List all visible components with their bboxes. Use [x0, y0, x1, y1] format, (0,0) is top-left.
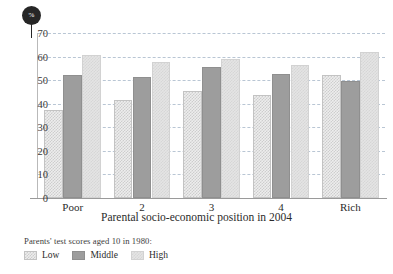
bar-middle-2	[133, 77, 152, 198]
x-axis-tick-label: Poor	[62, 201, 83, 213]
x-axis-line	[30, 198, 387, 199]
legend-title: Parents' test scores aged 10 in 1980:	[24, 236, 324, 246]
legend: Parents' test scores aged 10 in 1980: Lo…	[24, 236, 324, 260]
legend-swatch-middle-icon	[72, 251, 85, 260]
x-axis-tick-label: 3	[209, 201, 215, 213]
bar-low-4	[253, 95, 272, 198]
bar-group	[114, 33, 171, 198]
plot-area	[38, 33, 385, 198]
bar-high-2	[152, 62, 171, 198]
bar-middle-3	[202, 67, 221, 198]
bar-group	[322, 33, 379, 198]
x-axis-tick-label: Rich	[340, 201, 361, 213]
legend-swatch-high-icon	[131, 251, 144, 260]
y-axis-tick-label: 50	[24, 75, 48, 86]
bar-high-3	[221, 59, 240, 198]
bar-group	[253, 33, 310, 198]
bar-middle-rich	[341, 81, 360, 198]
legend-label: Middle	[90, 250, 117, 260]
y-axis-tick-label: 30	[24, 122, 48, 133]
legend-label: High	[149, 250, 168, 260]
legend-swatch-low-icon	[24, 251, 37, 260]
bar-high-4	[291, 65, 310, 198]
bar-high-poor	[82, 55, 101, 198]
bar-chart: % Parental socio-economic position in 20…	[0, 0, 393, 274]
percent-badge-stem	[31, 24, 32, 38]
y-axis-tick-label: 0	[24, 193, 48, 204]
legend-item-low[interactable]: Low	[24, 250, 59, 260]
bar-low-2	[114, 100, 133, 198]
y-axis-tick-label: 10	[24, 169, 48, 180]
legend-item-high[interactable]: High	[131, 250, 168, 260]
bar-low-3	[183, 91, 202, 198]
percent-badge-icon: %	[22, 6, 41, 25]
y-axis-tick-label: 40	[24, 98, 48, 109]
x-axis-tick-label: 2	[139, 201, 145, 213]
bar-middle-poor	[63, 75, 82, 198]
bar-middle-4	[272, 74, 291, 198]
y-axis-tick-label: 20	[24, 145, 48, 156]
x-axis-title: Parental socio-economic position in 2004	[0, 211, 393, 223]
y-axis-tick-label: 60	[24, 51, 48, 62]
bar-low-rich	[322, 75, 341, 198]
legend-label: Low	[42, 250, 59, 260]
legend-item-middle[interactable]: Middle	[72, 250, 117, 260]
x-axis-tick-label: 4	[278, 201, 284, 213]
bar-group	[183, 33, 240, 198]
y-axis-tick-label: 70	[24, 28, 48, 39]
bar-group	[44, 33, 101, 198]
legend-items: LowMiddleHigh	[24, 250, 324, 260]
bar-high-rich	[360, 52, 379, 198]
